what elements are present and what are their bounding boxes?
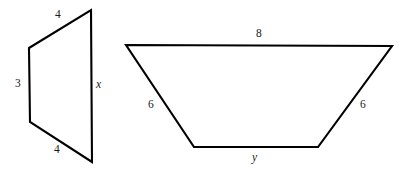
- geometry-figure-canvas: 4 3 x 4 8 6 6 y: [0, 0, 411, 176]
- left-quad-right-side-label-x: x: [96, 79, 101, 91]
- right-trapezoid-outline: [126, 45, 392, 147]
- figure-svg: [0, 0, 411, 176]
- right-trapezoid-right-leg-label: 6: [360, 99, 366, 111]
- left-quad-top-side-label: 4: [55, 9, 61, 21]
- left-quad-left-side-label: 3: [15, 78, 21, 90]
- left-quad-bottom-side-label: 4: [54, 144, 60, 156]
- right-trapezoid-left-leg-label: 6: [148, 99, 154, 111]
- right-trapezoid-bottom-side-label-y: y: [252, 152, 257, 164]
- right-trapezoid-top-side-label: 8: [256, 28, 262, 40]
- left-quadrilateral-outline: [29, 10, 92, 162]
